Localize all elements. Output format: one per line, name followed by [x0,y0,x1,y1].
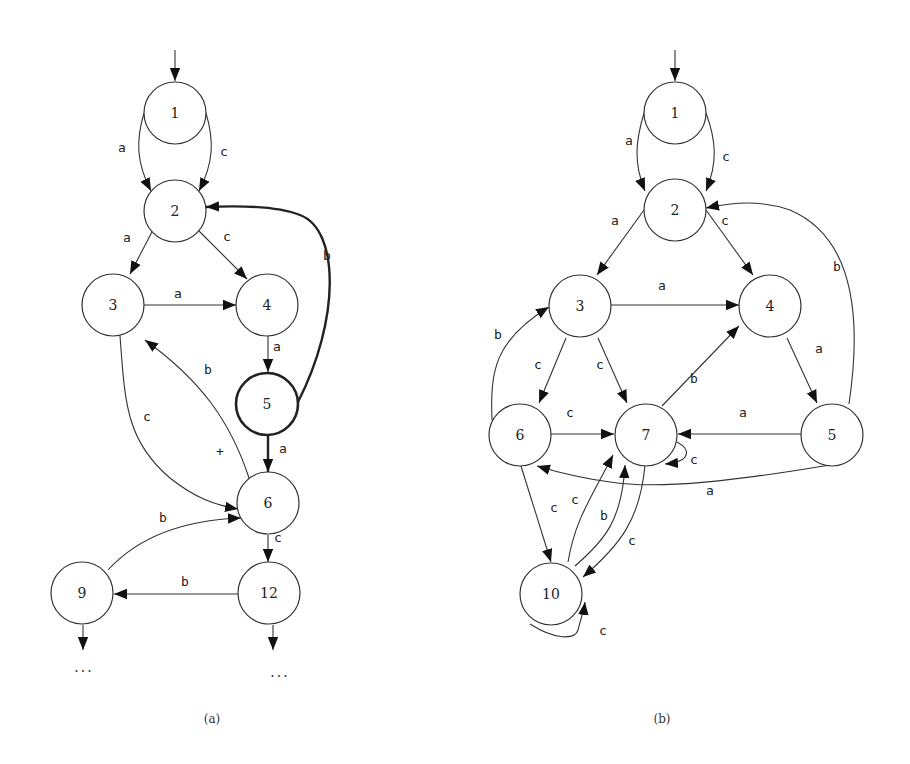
edge-a-6-3 [145,340,249,478]
edge-a-2-3 [130,230,153,274]
state-a-1: 1 [144,82,206,144]
state-b-4: 4 [739,275,801,337]
edge-b-1-2-a [637,113,645,191]
label-b-3-7: c [596,357,604,372]
state-label: 4 [766,298,775,314]
edge-b-7-10 [583,465,645,577]
state-label: 10 [542,586,560,602]
state-label: 2 [671,202,680,218]
state-label: 6 [264,495,273,511]
label-b-2-4: c [721,213,729,228]
state-label: 7 [642,427,651,443]
diagram-a: a c a c a a b a c b b c b + ... ... 1 2 … [51,50,331,726]
label-b-10-10: c [599,623,607,638]
label-a-9-6: b [159,510,167,525]
label-b-5-2: b [833,259,841,274]
automata-figure: a c a c a a b a c b b c b + ... ... 1 2 … [0,0,910,764]
label-a-5-6: a [279,441,287,456]
state-b-7: 7 [615,404,677,466]
label-b-6-10: c [550,500,558,515]
label-a-3-6: c [143,409,151,424]
label-b-1-2-a: a [625,133,633,148]
ellipsis-9: ... [74,659,93,675]
edge-a-3-6 [120,336,238,509]
state-a-3: 3 [82,274,144,336]
state-label: 1 [171,105,180,121]
label-b-7-10: c [628,533,636,548]
state-label: 5 [828,427,837,443]
label-b-10-7-b: b [600,508,608,523]
state-label: 3 [576,298,585,314]
edge-b-5-6 [537,465,830,485]
state-label: 4 [263,297,272,313]
label-a-2-4: c [223,229,231,244]
edge-b-1-2-c [706,113,714,191]
state-label: 3 [109,297,118,313]
edge-b-2-3 [597,210,644,275]
label-b-6-3: b [494,327,502,342]
edge-b-4-5 [787,338,817,403]
edge-b-7-4 [662,326,739,406]
state-label: 12 [260,585,278,601]
edge-b-6-10 [521,466,551,562]
label-a-3-4: a [174,286,182,301]
label-b-1-2-c: c [722,149,730,164]
caption-a: (a) [204,712,221,726]
state-label: 2 [171,203,180,219]
label-b-10-7-c: c [571,492,579,507]
label-b-5-7: a [739,405,747,420]
label-a-12-9: b [181,574,189,589]
state-a-2: 2 [144,180,206,242]
state-b-6: 6 [489,404,551,466]
state-a-5: 5 [236,373,298,435]
state-b-3: 3 [549,275,611,337]
state-b-2: 2 [644,179,706,241]
label-b-3-6: c [534,357,542,372]
label-a-4-5: a [273,339,281,354]
label-b-4-5: a [815,341,823,356]
edge-b-2-4 [706,210,753,275]
label-b-2-3: a [611,213,619,228]
state-b-10: 10 [520,563,582,625]
label-a-1-2-c: c [220,144,228,159]
edge-b-3-6 [539,338,566,403]
caption-b: (b) [653,712,670,726]
label-b-3-4: a [658,278,666,293]
label-a-5-2: b [323,248,331,263]
state-b-1: 1 [644,82,706,144]
state-a-4: 4 [236,274,298,336]
ellipsis-12: ... [270,664,289,680]
state-label: 6 [516,427,525,443]
state-label: 1 [671,105,680,121]
label-b-7-4: b [690,371,698,386]
label-a-1-2-a: a [118,140,126,155]
state-a-6: 6 [237,472,299,534]
label-a-2-3: a [123,230,131,245]
diagram-b: a c a c a a b c c b c b a c a c c b c c … [489,50,863,726]
state-b-5: 5 [801,404,863,466]
edge-a-9-6 [108,518,241,570]
plus-annotation: + [216,444,224,459]
label-b-6-7: c [566,405,574,420]
label-b-7-7: c [690,452,698,467]
state-a-9: 9 [51,562,113,624]
state-label: 9 [78,585,87,601]
label-b-5-6: a [706,483,714,498]
state-label: 5 [263,396,272,412]
state-a-12: 12 [238,562,300,624]
label-a-6-3: b [204,362,212,377]
